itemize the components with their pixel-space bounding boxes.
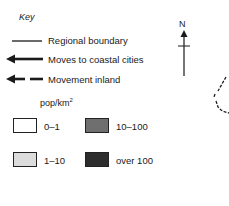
coastal-moves-label: Moves to coastal cities xyxy=(48,54,144,65)
regional-boundary-symbol xyxy=(11,38,43,44)
regional-boundary-label: Regional boundary xyxy=(48,35,128,46)
dashed-arrow-icon xyxy=(5,74,45,84)
density-unit-label: pop/km2 xyxy=(40,97,73,108)
inland-movement-label: Movement inland xyxy=(48,74,120,85)
density-label-1-10: 1–10 xyxy=(44,155,65,166)
regional-boundary-line xyxy=(200,60,229,120)
north-label: N xyxy=(179,19,186,29)
solid-arrow-icon xyxy=(5,54,45,64)
key-title: Key xyxy=(19,12,35,22)
density-swatch-over-100 xyxy=(85,152,109,167)
density-label-0-1: 0–1 xyxy=(44,121,60,132)
density-swatch-0-1 xyxy=(13,118,37,133)
density-label-over-100: over 100 xyxy=(116,155,153,166)
north-arrow-icon xyxy=(176,30,192,78)
density-swatch-10-100 xyxy=(85,118,109,133)
density-label-10-100: 10–100 xyxy=(116,121,148,132)
density-swatch-1-10 xyxy=(13,152,37,167)
